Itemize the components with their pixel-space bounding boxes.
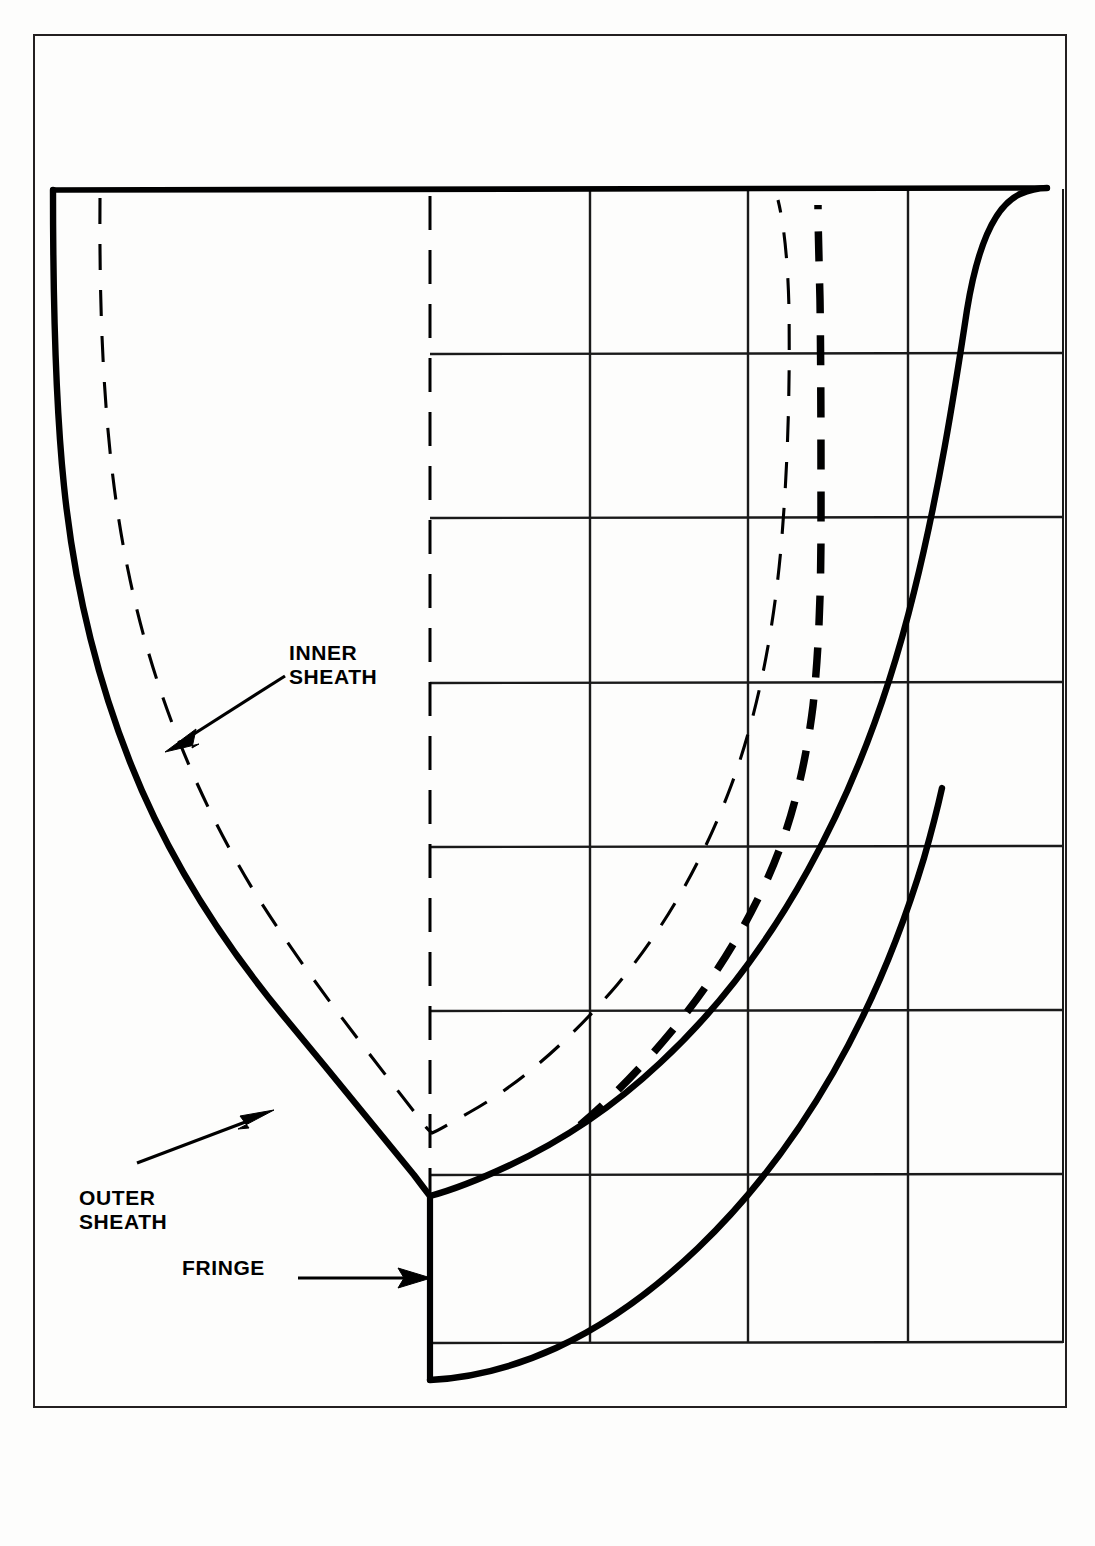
label-fringe: FRINGE <box>182 1256 265 1280</box>
label-inner-sheath: INNER SHEATH <box>289 641 377 689</box>
grid-hline-3 <box>430 682 1063 683</box>
outer-sheath-arrowhead <box>238 1110 274 1129</box>
grid-hline-5 <box>430 1010 1063 1011</box>
grid-hline-4 <box>430 846 1063 847</box>
grid-hline-2 <box>430 517 1063 518</box>
outer-sheath-curve <box>53 188 1047 1196</box>
grid-hline-1 <box>430 353 1063 354</box>
inner-sheath-curve <box>100 198 789 1133</box>
inner-sheath-leader-line <box>186 676 285 739</box>
grid-hline-6 <box>430 1174 1063 1175</box>
diagram-canvas: INNER SHEATH OUTER SHEATH FRINGE <box>0 0 1095 1546</box>
outer-sheath-lower-curve <box>430 788 942 1380</box>
annotation-leaders <box>137 676 431 1288</box>
outer-sheath-top-edge <box>53 188 1047 190</box>
grid-hline-7 <box>430 1342 1063 1343</box>
technical-drawing-svg <box>0 0 1095 1546</box>
outer-sheath-leader-line <box>137 1121 248 1163</box>
label-outer-sheath: OUTER SHEATH <box>79 1186 167 1234</box>
